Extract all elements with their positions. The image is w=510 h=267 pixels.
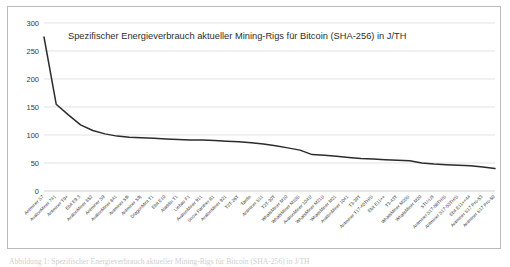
chart-y-axis-ticks: 050100150200250300 — [26, 19, 39, 196]
y-axis-tick-label: 0 — [35, 187, 39, 196]
y-axis-tick-label: 250 — [26, 47, 39, 56]
y-axis-tick-label: 200 — [26, 75, 39, 84]
energy-consumption-line-chart: 050100150200250300 Antminer S7AvalonMine… — [8, 7, 500, 248]
chart-x-axis-ticks: Antminer S7AvalonMiner 741Antminer T9+Eb… — [23, 194, 496, 230]
figure-caption: Abbildung 1: Spezifischer Energieverbrau… — [9, 256, 501, 267]
y-axis-tick-label: 300 — [26, 19, 39, 28]
chart-data-line — [44, 37, 495, 169]
y-axis-tick-label: 100 — [26, 131, 39, 140]
chart-figure-frame: 050100150200250300 Antminer S7AvalonMine… — [7, 6, 501, 249]
x-axis-tick-label: T2T-26T — [224, 194, 240, 210]
chart-gridlines — [44, 23, 495, 191]
chart-plot-area: 050100150200250300 Antminer S7AvalonMine… — [8, 7, 500, 248]
chart-title: Spezifischer Energieverbrauch aktueller … — [68, 31, 406, 41]
y-axis-tick-label: 150 — [26, 103, 39, 112]
y-axis-tick-label: 50 — [31, 159, 39, 168]
